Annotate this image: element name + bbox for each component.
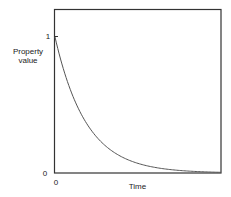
y-axis-label-line2: value <box>18 56 38 65</box>
x-axis-label: Time <box>129 182 147 191</box>
decay-curve <box>55 37 221 172</box>
x-tick-label-0: 0 <box>54 178 59 187</box>
y-tick-label-0: 0 <box>43 169 48 178</box>
chart: 1 0 0 Property value Time <box>0 0 231 197</box>
plot-frame <box>55 10 222 174</box>
y-tick-label-1: 1 <box>46 32 51 41</box>
y-axis-label-line1: Property <box>13 47 43 56</box>
